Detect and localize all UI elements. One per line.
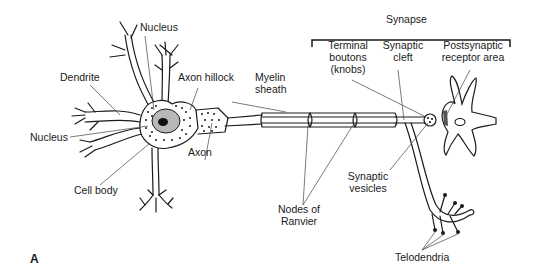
dendrite-lower xyxy=(140,148,173,212)
label-nucleus-top: Nucleus xyxy=(140,21,178,33)
dendrite-left xyxy=(72,103,142,157)
label-nodes-of-ranvier: Nodes of Ranvier xyxy=(268,203,330,227)
dendrite-upper-middle xyxy=(155,42,178,105)
myelin-sheath xyxy=(261,113,397,127)
label-terminal-boutons: Terminal boutons (knobs) xyxy=(315,39,381,75)
postsynaptic-cell xyxy=(442,76,496,156)
nucleolus xyxy=(158,118,168,126)
label-synapse: Synapse xyxy=(386,13,427,25)
label-telodendria: Telodendria xyxy=(395,251,449,263)
axon-segment xyxy=(228,115,262,118)
label-synaptic-cleft: Synaptic cleft xyxy=(378,39,428,63)
label-axon-hillock: Axon hillock xyxy=(178,71,234,83)
panel-label: A xyxy=(30,252,39,266)
terminal-bouton xyxy=(424,114,436,126)
label-axon: Axon xyxy=(188,146,212,158)
label-myelin-sheath: Myelin sheath xyxy=(255,71,287,95)
label-synaptic-vesicles: Synaptic vesicles xyxy=(340,170,396,194)
label-nucleus-left: Nucleus xyxy=(30,131,68,143)
label-dendrite: Dendrite xyxy=(60,71,100,83)
label-cell-body: Cell body xyxy=(74,184,118,196)
dendrite-upper-left xyxy=(110,22,156,108)
neuron-diagram: Nucleus Dendrite Axon hillock Myelin she… xyxy=(0,0,539,277)
synaptic-vesicle-dots xyxy=(427,117,433,123)
label-postsynaptic-receptor-area: Postsynaptic receptor area xyxy=(435,39,511,63)
